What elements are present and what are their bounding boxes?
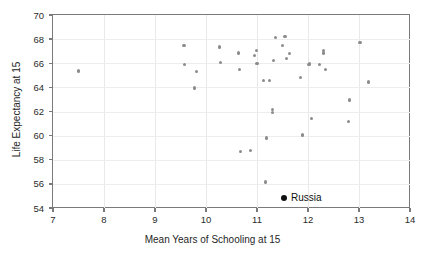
data-point: [268, 79, 271, 82]
x-axis-tick: [205, 208, 206, 212]
data-point: [324, 68, 327, 71]
y-axis-tick: [49, 183, 53, 184]
y-axis-tick-label: 58: [22, 154, 44, 165]
x-axis-tick-label: 13: [344, 214, 374, 225]
y-axis-tick-label: 68: [22, 34, 44, 45]
y-axis-tick-label: 60: [22, 130, 44, 141]
data-point: [299, 76, 302, 79]
data-point: [358, 41, 361, 44]
data-point: [249, 149, 252, 152]
data-point: [238, 68, 241, 71]
data-point: [182, 44, 185, 47]
y-gridline: [53, 160, 410, 161]
y-gridline: [53, 184, 410, 185]
data-point: [367, 80, 370, 83]
data-point: [274, 36, 277, 39]
data-point: [264, 180, 267, 183]
x-axis-tick: [307, 208, 308, 212]
x-axis-tick-label: 9: [140, 214, 170, 225]
data-point: [253, 54, 256, 57]
data-point: [310, 117, 313, 120]
data-point: [239, 150, 242, 153]
y-axis-tick: [49, 111, 53, 112]
plot-area: 7891011121314545658606264666870Russia: [52, 15, 409, 208]
data-point: [322, 51, 325, 54]
data-point: [281, 44, 284, 47]
y-axis-tick: [49, 159, 53, 160]
y-axis-tick: [49, 87, 53, 88]
y-axis-tick: [49, 135, 53, 136]
y-axis-tick-label: 54: [22, 203, 44, 214]
x-axis-tick-label: 12: [293, 214, 323, 225]
data-point: [318, 63, 321, 66]
data-point: [193, 86, 196, 89]
data-point: [347, 120, 350, 123]
x-axis-tick-label: 11: [242, 214, 272, 225]
highlighted-data-point-russia: [281, 195, 287, 201]
y-axis-tick-label: 70: [22, 10, 44, 21]
data-point: [183, 63, 186, 66]
y-axis-tick-label: 62: [22, 106, 44, 117]
data-point: [262, 79, 265, 82]
y-axis-tick: [49, 63, 53, 64]
y-axis-title-wrapper: Life Expectancy at 15: [2, 0, 18, 258]
x-axis-tick: [103, 208, 104, 212]
x-axis-tick: [154, 208, 155, 212]
x-axis-tick: [409, 208, 410, 212]
data-point: [237, 51, 240, 54]
y-gridline: [53, 63, 410, 64]
y-axis-tick: [49, 14, 53, 15]
data-point: [288, 52, 291, 55]
y-axis-tick-label: 64: [22, 82, 44, 93]
y-axis-title: Life Expectancy at 15: [11, 20, 22, 200]
y-axis-tick: [49, 207, 53, 208]
data-point-annotation-label: Russia: [291, 192, 322, 203]
data-point: [285, 57, 288, 60]
data-point: [301, 133, 304, 136]
data-point: [308, 62, 311, 65]
data-point: [195, 70, 198, 73]
x-axis-tick-label: 10: [191, 214, 221, 225]
y-gridline: [53, 112, 410, 113]
x-axis-tick: [358, 208, 359, 212]
data-point: [265, 136, 268, 139]
x-axis-title: Mean Years of Schooling at 15: [0, 234, 425, 245]
x-axis-tick-label: 8: [89, 214, 119, 225]
data-point: [218, 45, 221, 48]
data-point: [348, 98, 351, 101]
data-point: [283, 35, 286, 38]
y-axis-tick-label: 56: [22, 178, 44, 189]
data-point: [271, 111, 274, 114]
y-gridline: [53, 87, 410, 88]
y-axis-tick-label: 66: [22, 58, 44, 69]
x-axis-tick: [256, 208, 257, 212]
data-point: [255, 62, 258, 65]
data-point: [77, 69, 80, 72]
scatter-plot-figure: 7891011121314545658606264666870Russia Li…: [0, 0, 425, 258]
data-point: [272, 59, 275, 62]
x-axis-tick-label: 7: [38, 214, 68, 225]
y-gridline: [53, 39, 410, 40]
y-axis-tick: [49, 38, 53, 39]
x-axis-tick-label: 14: [395, 214, 425, 225]
y-gridline: [53, 136, 410, 137]
